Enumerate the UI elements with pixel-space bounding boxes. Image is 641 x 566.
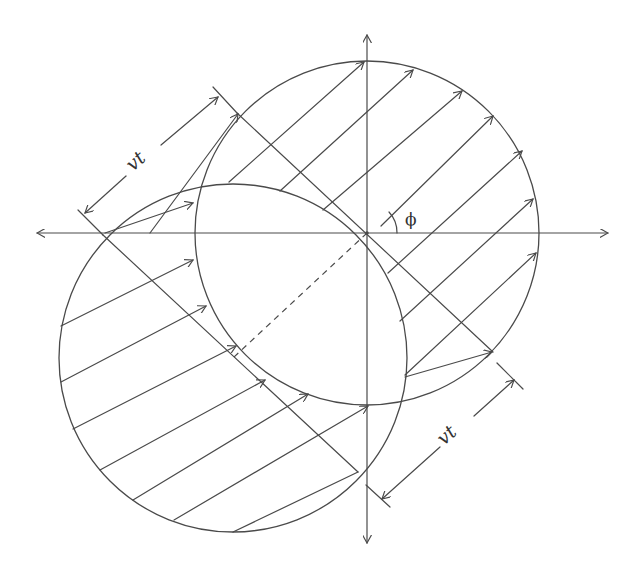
perpendicular-boundary-lines	[103, 113, 493, 472]
dimension-arrow	[474, 380, 514, 416]
axes	[37, 35, 608, 543]
angle-phi-label: ϕ	[405, 209, 417, 229]
hatch-arrow	[323, 91, 462, 210]
vt-label-upper: vt	[121, 146, 150, 175]
dimension-tick	[213, 87, 237, 113]
hatch-arrow	[405, 253, 536, 375]
dimension-arrow	[382, 447, 440, 499]
hatch-arrow	[280, 70, 413, 191]
dimension-vt-upper: vt	[78, 87, 237, 235]
hatch-line	[61, 260, 193, 326]
dimension-tick	[497, 363, 523, 389]
origin-point	[365, 231, 369, 235]
hatch-arrow	[229, 62, 364, 182]
diagram-canvas: ϕ vt vt	[0, 0, 641, 566]
center-displacement-dashed-line	[233, 233, 367, 358]
boundary-line-lower	[103, 235, 358, 472]
dimension-tick	[78, 210, 103, 235]
dimension-tick	[366, 485, 390, 507]
hatch-arrow	[150, 114, 238, 233]
vt-label-lower: vt	[432, 420, 461, 449]
dimension-arrow	[161, 97, 218, 145]
hatch-line	[73, 346, 236, 429]
hatch-arrow	[405, 352, 492, 377]
hatch-arrow	[400, 199, 533, 321]
swept-area-diagram: ϕ vt vt	[0, 0, 641, 566]
hatch-line	[174, 406, 368, 520]
hatch-line	[233, 472, 358, 532]
hatch-line	[61, 306, 206, 382]
hatch-arrows-displaced	[150, 62, 536, 377]
circle-original	[59, 184, 407, 532]
angle-phi-arc	[389, 212, 397, 233]
hatch-arrow	[381, 116, 493, 226]
hatch-arrows-original	[61, 203, 368, 532]
hatch-line	[133, 394, 308, 500]
hatch-line	[100, 380, 265, 470]
hatch-line	[105, 203, 193, 233]
dimension-arrow	[85, 176, 126, 213]
